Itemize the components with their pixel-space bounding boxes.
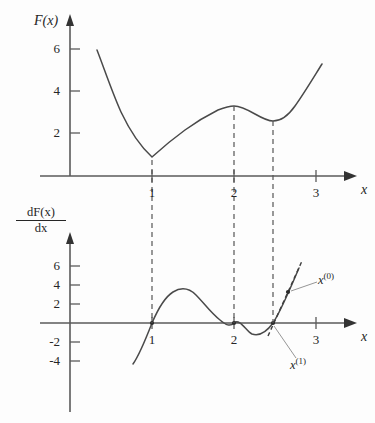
leader-x0 (291, 282, 317, 291)
dashed-connectors (152, 106, 273, 323)
upper-ytick-label-6: 6 (38, 42, 60, 55)
annotation-x0-superscript: (0) (324, 271, 335, 281)
annotation-x0: x(0) (318, 272, 334, 287)
upper-ytick-label-4: 4 (38, 84, 60, 97)
upper-y-axis-label: F(x) (34, 14, 58, 28)
tangent-point-x0 (286, 290, 290, 294)
upper-y-axis-arrowhead (66, 14, 74, 26)
lower-curve-dF (133, 268, 299, 364)
math-figure: F(x) 2 4 6 1 2 3 x dF(x) dx 6 4 2 -2 -4 … (0, 0, 375, 423)
lower-y-axis-arrowhead (66, 232, 74, 244)
upper-curve-F (97, 50, 322, 157)
lower-ytick-label-4: 4 (38, 278, 60, 291)
upper-xtick-label-2: 2 (224, 186, 244, 199)
lower-ytick-label-minus4: -4 (33, 354, 60, 367)
upper-plot-group (40, 14, 357, 182)
annotation-x1-superscript: (1) (296, 356, 307, 366)
upper-x-axis-label: x (361, 183, 367, 197)
upper-x-axis-arrowhead (344, 171, 357, 181)
lower-plot-group (40, 232, 357, 412)
lower-xtick-label-2: 2 (224, 333, 244, 346)
upper-xtick-label-1: 1 (142, 186, 162, 199)
upper-xtick-label-3: 3 (306, 186, 326, 199)
lower-xtick-label-1: 1 (142, 333, 162, 346)
upper-ytick-label-2: 2 (38, 126, 60, 139)
annotation-x1: x(1) (290, 357, 306, 372)
lower-ytick-label-2: 2 (38, 297, 60, 310)
lower-ytick-label-6: 6 (38, 259, 60, 272)
lower-ytick-label-minus2: -2 (33, 335, 60, 348)
lower-y-axis-label-denominator: dx (16, 221, 66, 235)
leader-x1 (274, 326, 296, 358)
lower-x-axis-label: x (361, 330, 367, 344)
lower-y-axis-label: dF(x) dx (16, 206, 66, 235)
lower-x-axis-arrowhead (344, 318, 357, 328)
lower-xtick-label-3: 3 (306, 333, 326, 346)
lower-y-axis-label-numerator: dF(x) (16, 206, 66, 221)
